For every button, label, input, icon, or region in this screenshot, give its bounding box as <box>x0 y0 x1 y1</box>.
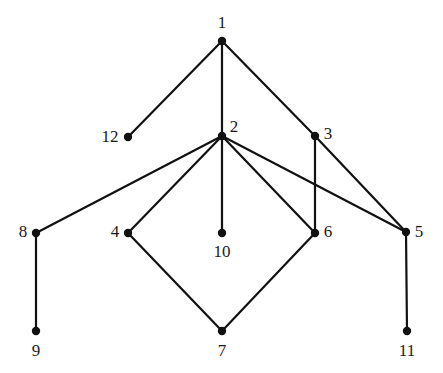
graph-node-label-11: 11 <box>399 342 415 359</box>
graph-node-7 <box>218 327 226 335</box>
graph-edge-4-7 <box>128 233 222 331</box>
graph-edge-3-5 <box>315 136 406 232</box>
graph-node-5 <box>402 228 410 236</box>
graph-node-3 <box>311 132 319 140</box>
graph-node-4 <box>124 229 132 237</box>
graph-node-10 <box>218 229 226 237</box>
graph-node-label-5: 5 <box>415 223 424 240</box>
graph-node-1 <box>218 37 226 45</box>
graph-node-label-12: 12 <box>102 128 119 145</box>
graph-node-label-4: 4 <box>111 223 120 240</box>
graph-edge-2-4 <box>128 136 222 233</box>
edges-layer <box>36 41 407 331</box>
graph-node-label-8: 8 <box>19 223 28 240</box>
graph-edge-1-12 <box>128 41 222 137</box>
graph-node-2 <box>218 132 226 140</box>
graph-node-label-9: 9 <box>32 342 41 359</box>
graph-edge-6-7 <box>222 233 315 331</box>
graph-canvas <box>0 0 443 373</box>
graph-edge-2-8 <box>36 136 222 233</box>
graph-node-label-1: 1 <box>218 14 227 31</box>
graph-node-label-3: 3 <box>324 125 333 142</box>
graph-node-8 <box>32 229 40 237</box>
graph-diagram: 123456789101112 <box>0 0 443 373</box>
graph-node-6 <box>311 229 319 237</box>
graph-node-12 <box>124 133 132 141</box>
graph-node-label-10: 10 <box>214 243 231 260</box>
graph-node-label-7: 7 <box>218 342 227 359</box>
graph-edge-5-11 <box>406 232 407 331</box>
graph-edge-2-6 <box>222 136 315 233</box>
graph-node-label-2: 2 <box>230 118 239 135</box>
graph-node-label-6: 6 <box>324 223 333 240</box>
graph-node-11 <box>403 327 411 335</box>
graph-node-9 <box>32 327 40 335</box>
